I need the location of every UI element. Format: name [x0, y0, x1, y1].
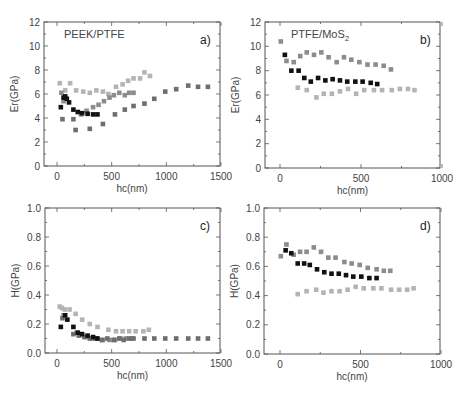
data-point	[336, 271, 341, 276]
data-point	[85, 333, 90, 338]
data-point	[91, 112, 96, 117]
x-tick-label: 500	[352, 359, 369, 370]
x-tick-label: 1500	[210, 358, 233, 369]
material-title: PEEK/PTFE	[64, 28, 125, 40]
data-point	[120, 82, 125, 87]
data-point	[349, 57, 354, 62]
data-point	[304, 50, 309, 55]
data-point	[321, 290, 326, 295]
series-light-gray	[296, 85, 417, 99]
data-point	[371, 286, 376, 291]
data-point	[206, 85, 211, 90]
data-point	[63, 313, 68, 318]
y-tick-label: 0.2	[27, 319, 41, 330]
data-point	[127, 91, 132, 96]
data-point	[289, 251, 294, 256]
x-tick-label: 0	[277, 173, 283, 184]
x-axis-title: hc(nm)	[116, 183, 147, 194]
data-point	[326, 255, 331, 260]
data-point	[284, 242, 289, 247]
data-point	[319, 50, 324, 55]
data-point	[59, 325, 64, 330]
panel-label: b)	[420, 33, 431, 47]
data-point	[284, 59, 289, 64]
data-point	[342, 55, 347, 60]
data-point	[323, 78, 328, 83]
data-point	[354, 91, 359, 96]
data-point	[312, 245, 317, 250]
data-point	[80, 111, 85, 116]
data-point	[367, 276, 372, 281]
series-black	[283, 248, 379, 280]
data-point	[365, 266, 370, 271]
data-point	[389, 88, 394, 93]
x-tick-label: 500	[103, 358, 120, 369]
y-tick-label: 1.0	[246, 203, 260, 214]
data-point	[101, 122, 106, 127]
data-point	[100, 338, 105, 343]
x-tick-label: 1000	[155, 171, 178, 182]
data-point	[91, 105, 96, 110]
data-point	[279, 39, 284, 44]
data-point	[113, 112, 118, 117]
y-tick-label: 12	[29, 17, 41, 28]
data-point	[411, 286, 416, 291]
data-point	[345, 79, 350, 84]
data-point	[67, 307, 72, 312]
data-point	[329, 271, 334, 276]
panel-b: 02468101205001000hc(nm)Er(GPa)b)PTFE/MoS…	[230, 17, 454, 197]
data-point	[289, 68, 294, 73]
y-tick-label: 10	[250, 41, 262, 52]
data-point	[312, 53, 317, 58]
data-point	[353, 79, 358, 84]
data-point	[319, 250, 324, 255]
data-point	[316, 76, 321, 81]
y-tick-label: 1.0	[27, 203, 41, 214]
y-tick-label: 0.8	[27, 232, 41, 243]
data-point	[381, 64, 386, 69]
data-point	[374, 267, 379, 272]
data-point	[95, 325, 100, 330]
data-point	[126, 79, 131, 84]
data-point	[344, 273, 349, 278]
plot-frame	[45, 208, 220, 353]
data-point	[142, 101, 147, 106]
data-point	[389, 67, 394, 72]
figure: 024681012050010001500hc(nm)Er(GPa)a)PEEK…	[0, 0, 464, 395]
data-point	[85, 112, 90, 117]
data-point	[131, 336, 136, 341]
data-point	[295, 292, 300, 297]
data-point	[71, 332, 76, 337]
data-point	[60, 117, 65, 122]
data-point	[338, 78, 343, 83]
data-point	[279, 254, 284, 259]
data-point	[304, 250, 309, 255]
y-tick-label: 0.8	[246, 232, 260, 243]
data-point	[307, 263, 312, 268]
series-mid-gray	[279, 39, 394, 72]
data-point	[302, 261, 307, 266]
data-point	[80, 317, 85, 322]
data-point	[122, 107, 127, 112]
data-point	[73, 128, 78, 133]
data-point	[361, 286, 366, 291]
data-point	[374, 276, 379, 281]
data-point	[368, 81, 373, 86]
data-point	[106, 328, 111, 333]
data-point	[291, 60, 296, 65]
plot-frame	[265, 22, 440, 168]
y-axis-title: Er(GPa)	[230, 77, 241, 114]
data-point	[138, 76, 143, 81]
data-point	[398, 87, 403, 92]
data-point	[74, 88, 79, 93]
x-tick-label: 0	[277, 359, 283, 370]
y-tick-label: 0.4	[27, 290, 41, 301]
data-point	[71, 107, 76, 112]
x-tick-label: 1500	[210, 171, 233, 182]
x-axis-title: hc(nm)	[336, 371, 367, 382]
data-point	[117, 336, 122, 341]
data-point	[388, 268, 393, 273]
x-axis-title: hc(nm)	[337, 185, 368, 196]
data-point	[142, 336, 147, 341]
data-point	[131, 76, 136, 81]
